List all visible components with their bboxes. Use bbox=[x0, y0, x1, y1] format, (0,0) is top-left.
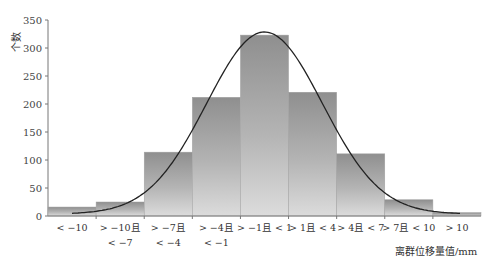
bar bbox=[289, 92, 337, 216]
y-axis-title: 个数 bbox=[10, 32, 22, 52]
x-category-label: > 10 bbox=[445, 222, 468, 233]
y-tick-label: 350 bbox=[23, 15, 42, 26]
x-category-label: > −1且 < 1 bbox=[237, 222, 292, 233]
y-tick-label: 100 bbox=[23, 155, 42, 166]
x-category-label: < −7 bbox=[108, 237, 133, 248]
x-category-label: > −7且 bbox=[151, 222, 186, 233]
y-tick-label: 200 bbox=[23, 99, 42, 110]
x-category-label: < −1 bbox=[204, 237, 229, 248]
bar bbox=[144, 152, 192, 216]
y-tick-label: 50 bbox=[29, 183, 42, 194]
x-category-label: > 7且 < 10 bbox=[382, 222, 435, 233]
bars bbox=[48, 35, 481, 216]
bar bbox=[192, 97, 240, 216]
y-tick-label: 0 bbox=[36, 211, 42, 222]
y-axis: 050100150200250300350 bbox=[23, 15, 48, 222]
x-category-label: > −4且 bbox=[199, 222, 234, 233]
x-category-label: < −4 bbox=[156, 237, 181, 248]
bar bbox=[385, 200, 433, 216]
x-axis-title: 离群位移量值/mm bbox=[395, 245, 478, 257]
y-tick-label: 300 bbox=[23, 43, 42, 54]
x-category-label: > −10且 bbox=[100, 222, 141, 233]
x-axis: < −10> −10且< −7> −7且< −4> −4且< −1> −1且 <… bbox=[48, 216, 481, 248]
bar bbox=[96, 202, 144, 216]
y-tick-label: 150 bbox=[23, 127, 42, 138]
x-category-label: < −10 bbox=[57, 222, 88, 233]
histogram-chart: 050100150200250300350 < −10> −10且< −7> −… bbox=[0, 0, 497, 261]
bar bbox=[240, 35, 288, 216]
y-tick-label: 250 bbox=[23, 71, 42, 82]
x-category-label: > 1且 < 4 bbox=[289, 222, 336, 233]
bar bbox=[337, 154, 385, 216]
x-category-label: > 4且 < 7 bbox=[337, 222, 384, 233]
